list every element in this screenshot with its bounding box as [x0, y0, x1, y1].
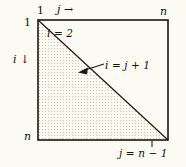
axis-left-start-label: 1 — [24, 17, 31, 28]
axis-left-end-label: n — [24, 131, 31, 142]
axis-left-variable-label: i ↓ — [13, 54, 30, 65]
annotation-col-end: j = n − 1 — [119, 148, 168, 159]
axis-top-start-label: 1 — [37, 5, 44, 16]
matrix-index-region-diagram: 1 j → n 1 i ↓ n i = 2 i = j + 1 j = n − … — [0, 0, 186, 167]
axis-top-variable-label: j → — [57, 4, 73, 15]
annotation-row-start: i = 2 — [47, 28, 73, 39]
axis-top-end-label: n — [160, 6, 167, 17]
annotation-diagonal: i = j + 1 — [105, 60, 150, 71]
